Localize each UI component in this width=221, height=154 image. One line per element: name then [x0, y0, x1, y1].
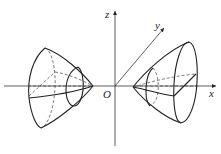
- left-small-rim-back: [74, 67, 83, 106]
- right-upper-generator: [133, 42, 189, 87]
- right-small-rim-back: [150, 68, 158, 106]
- right-rim: [174, 42, 197, 123]
- left-rim-front: [29, 48, 45, 128]
- right-sheet: [133, 42, 198, 123]
- left-upper-generator: [45, 48, 93, 86]
- hyperboloid-diagram: x y z O: [0, 0, 221, 154]
- left-rim-back: [41, 48, 55, 128]
- left-diagonal-dashed: [29, 72, 55, 96]
- z-axis-label: z: [104, 8, 110, 20]
- x-axis-label: x: [208, 87, 214, 99]
- right-diagonal: [174, 74, 196, 96]
- y-axis-label: y: [154, 19, 160, 31]
- left-small-rim-front: [66, 67, 78, 106]
- origin-label: O: [103, 88, 111, 100]
- y-axis: [115, 28, 164, 86]
- right-small-rim-front: [146, 68, 153, 106]
- left-sheet: [28, 48, 93, 128]
